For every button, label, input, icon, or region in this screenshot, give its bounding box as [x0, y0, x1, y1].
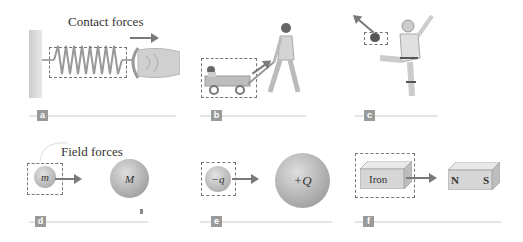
force-arrow: [130, 37, 152, 39]
gravity-force-arrow: [55, 178, 75, 180]
panel-d-baseline: [29, 221, 148, 223]
panel-b-badge: b: [211, 110, 222, 121]
panel-f-badge: f: [363, 216, 374, 227]
spring-dashed-box: [49, 47, 127, 78]
panel-e: −q +Q e: [180, 121, 340, 242]
panel-c-badge: c: [364, 110, 375, 121]
magnetic-force-arrow: [406, 177, 430, 179]
wall: [29, 30, 42, 98]
football-player-icon: [378, 10, 438, 100]
electric-force-arrow: [232, 178, 252, 180]
panel-d: m M d: [0, 121, 180, 242]
panel-c: c: [340, 0, 523, 121]
south-pole-label: S: [483, 174, 489, 186]
panel-e-badge: e: [211, 216, 222, 227]
panel-a-badge: a: [37, 110, 48, 121]
iron-label: Iron: [369, 173, 387, 185]
panel-a: a: [0, 0, 180, 121]
panel-b: b: [180, 0, 340, 121]
large-mass-sphere: M: [110, 159, 149, 198]
panel-a-baseline: [29, 115, 176, 117]
small-mass-sphere: m: [34, 166, 56, 188]
hand-icon: [128, 42, 180, 84]
cursor-mark: [140, 209, 143, 214]
north-pole-label: N: [451, 174, 459, 186]
negative-charge-sphere: −q: [205, 166, 231, 192]
person-pulling-wagon-icon: [202, 20, 312, 100]
positive-charge-sphere: +Q: [275, 153, 330, 208]
panel-f-baseline: [355, 221, 501, 223]
panel-f: Iron N S f: [340, 121, 523, 242]
panel-d-badge: d: [35, 216, 46, 227]
